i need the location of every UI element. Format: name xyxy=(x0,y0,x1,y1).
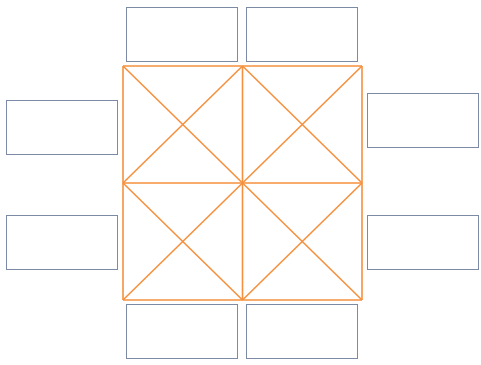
box-bottom-left xyxy=(126,304,238,359)
box-bottom-right xyxy=(246,304,358,359)
box-right-top xyxy=(367,93,479,148)
diagram-canvas xyxy=(0,0,481,365)
box-top-right xyxy=(246,7,358,62)
box-left-top xyxy=(6,100,118,155)
box-right-bottom xyxy=(367,215,479,270)
crossed-grid xyxy=(0,0,481,365)
box-top-left xyxy=(126,7,238,62)
box-left-bottom xyxy=(6,215,118,270)
